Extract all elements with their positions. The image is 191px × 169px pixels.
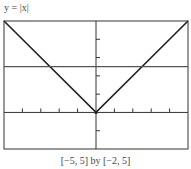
graph-window — [0, 0, 191, 169]
window-caption: [−5, 5] by [−2, 5] — [0, 155, 191, 166]
vertex-point — [94, 111, 97, 114]
